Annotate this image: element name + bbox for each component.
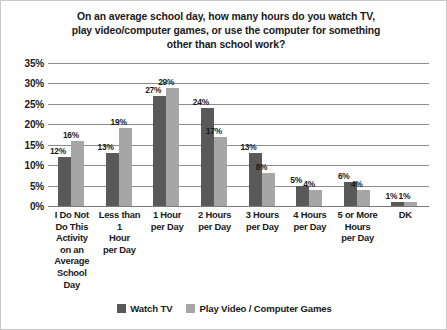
bar bbox=[58, 157, 71, 206]
x-axis-category-label: 5 or MoreHoursper Day bbox=[334, 209, 382, 244]
chart-title-line-2: play video/computer games, or use the co… bbox=[31, 24, 421, 38]
bar-value-label: 16% bbox=[58, 130, 84, 140]
bar-value-label: 13% bbox=[93, 142, 119, 152]
y-axis-tick-label: 25% bbox=[10, 98, 44, 109]
bar bbox=[391, 202, 404, 206]
x-axis-category-label: I Do NotDo ThisActivityon anAverageSchoo… bbox=[48, 209, 96, 290]
bar-group: 13%19% bbox=[96, 63, 144, 206]
bar bbox=[262, 173, 275, 206]
bar-group: 27%29% bbox=[143, 63, 191, 206]
gridline bbox=[48, 206, 429, 207]
x-axis: I Do NotDo ThisActivityon anAverageSchoo… bbox=[48, 209, 429, 294]
chart-title: On an average school day, how many hours… bbox=[31, 10, 421, 53]
legend-label: Play Video / Computer Games bbox=[199, 303, 331, 314]
bar-value-label: 1% bbox=[391, 191, 417, 201]
x-axis-category-label: 2 Hoursper Day bbox=[191, 209, 239, 232]
bar-value-label: 24% bbox=[188, 97, 214, 107]
bar bbox=[166, 88, 179, 206]
bar bbox=[119, 128, 132, 206]
bar-value-label: 17% bbox=[201, 126, 227, 136]
legend-item[interactable]: Watch TV bbox=[117, 303, 172, 314]
bar bbox=[106, 153, 119, 206]
bar-value-label: 19% bbox=[106, 117, 132, 127]
bar-value-label: 4% bbox=[296, 179, 322, 189]
bar-value-label: 4% bbox=[344, 179, 370, 189]
bar-group: 24%17% bbox=[191, 63, 239, 206]
bar-group: 1%1% bbox=[381, 63, 429, 206]
bar bbox=[153, 96, 166, 206]
chart-legend: Watch TVPlay Video / Computer Games bbox=[1, 303, 447, 314]
bar-value-label: 29% bbox=[153, 77, 179, 87]
bar-group: 12%16% bbox=[48, 63, 96, 206]
x-axis-category-label: Less than 1Hourper Day bbox=[96, 209, 144, 255]
legend-swatch-icon bbox=[117, 304, 126, 313]
bar bbox=[404, 202, 417, 206]
y-axis-tick-label: 15% bbox=[10, 139, 44, 150]
bar-value-label: 8% bbox=[249, 162, 275, 172]
bar-group: 6%4% bbox=[334, 63, 382, 206]
bar bbox=[357, 190, 370, 206]
y-axis-tick-label: 0% bbox=[10, 201, 44, 212]
y-axis-tick-label: 30% bbox=[10, 78, 44, 89]
y-axis-tick-label: 20% bbox=[10, 119, 44, 130]
bar-group: 5%4% bbox=[286, 63, 334, 206]
bar bbox=[249, 153, 262, 206]
legend-label: Watch TV bbox=[130, 303, 172, 314]
y-axis-tick-label: 5% bbox=[10, 180, 44, 191]
legend-item[interactable]: Play Video / Computer Games bbox=[186, 303, 331, 314]
x-axis-category-label: 1 Hourper Day bbox=[143, 209, 191, 232]
y-axis-tick-label: 10% bbox=[10, 160, 44, 171]
legend-swatch-icon bbox=[186, 304, 195, 313]
y-axis: 0%5%10%15%20%25%30%35% bbox=[6, 63, 44, 206]
bar bbox=[214, 137, 227, 206]
bar bbox=[309, 190, 322, 206]
bars-layer: 12%16%13%19%27%29%24%17%13%8%5%4%6%4%1%1… bbox=[48, 63, 429, 206]
chart-title-line-3: other than school work? bbox=[31, 38, 421, 52]
bar-value-label: 13% bbox=[236, 142, 262, 152]
chart-container: On an average school day, how many hours… bbox=[0, 0, 447, 330]
bar bbox=[201, 108, 214, 206]
x-axis-category-label: DK bbox=[381, 209, 429, 221]
y-axis-tick-label: 35% bbox=[10, 58, 44, 69]
chart-title-line-1: On an average school day, how many hours… bbox=[31, 10, 421, 24]
bar-value-label: 12% bbox=[45, 146, 71, 156]
bar-group: 13%8% bbox=[239, 63, 287, 206]
x-axis-category-label: 3 Hoursper Day bbox=[239, 209, 287, 232]
bar bbox=[71, 141, 84, 206]
x-axis-category-label: 4 Hoursper Day bbox=[286, 209, 334, 232]
